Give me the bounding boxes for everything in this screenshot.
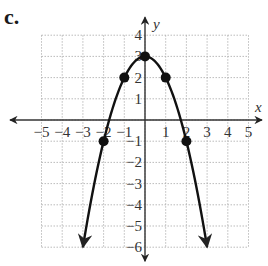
data-point — [181, 136, 191, 146]
y-tick-label: 4 — [135, 27, 143, 43]
x-axis-label: x — [254, 99, 262, 115]
data-point — [161, 73, 171, 83]
y-tick-label: −5 — [126, 218, 142, 234]
y-axis-label: y — [151, 16, 160, 32]
data-point — [140, 51, 150, 61]
x-tick-label: −5 — [34, 124, 50, 140]
y-tick-label: −1 — [126, 133, 142, 149]
x-tick-label: 1 — [162, 124, 170, 140]
y-tick-label: −6 — [126, 239, 142, 255]
x-tick-label: 3 — [203, 124, 211, 140]
y-tick-label: −3 — [126, 176, 142, 192]
x-tick-label: 4 — [224, 124, 232, 140]
y-tick-label: −2 — [126, 154, 142, 170]
y-tick-label: −4 — [126, 197, 142, 213]
y-tick-label: 1 — [135, 91, 143, 107]
x-tick-label: 5 — [245, 124, 253, 140]
x-tick-label: −4 — [54, 124, 70, 140]
x-tick-label: −3 — [75, 124, 91, 140]
y-tick-label: 2 — [135, 70, 143, 86]
data-point — [99, 136, 109, 146]
parabola-graph: xy−5−4−3−2−1123454321−1−2−3−4−5−6 — [0, 0, 268, 266]
data-point — [119, 73, 129, 83]
